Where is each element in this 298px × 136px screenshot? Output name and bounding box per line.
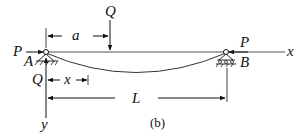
beam-diagram: P P x A B Q a y Q x L (b): [0, 0, 298, 136]
x-axis-label: x: [286, 43, 294, 59]
axial-force-left-label: P: [12, 43, 22, 59]
support-a-label: A: [23, 53, 34, 69]
support-b-label: B: [240, 54, 249, 70]
figure-caption: (b): [150, 115, 165, 130]
dim-l-label: L: [131, 90, 140, 106]
axial-force-right-label: P: [239, 34, 249, 50]
y-axis-label: y: [39, 116, 48, 132]
dim-a-label: a: [72, 27, 80, 43]
deflection-curve: [46, 53, 226, 73]
point-load-label: Q: [105, 3, 116, 19]
reaction-left-label: Q: [32, 71, 43, 87]
dim-x-label: x: [63, 71, 71, 87]
